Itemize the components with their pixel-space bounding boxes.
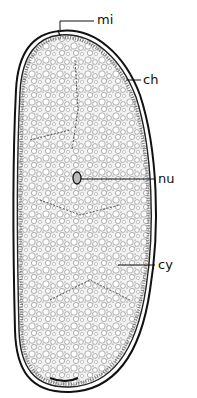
nucleus xyxy=(73,172,81,184)
label-micropyle: mi xyxy=(97,13,113,26)
cell-diagram xyxy=(0,0,197,398)
label-nucleus: nu xyxy=(158,172,174,185)
label-cytoplasm: cy xyxy=(158,258,173,271)
label-chorion: ch xyxy=(143,73,158,86)
